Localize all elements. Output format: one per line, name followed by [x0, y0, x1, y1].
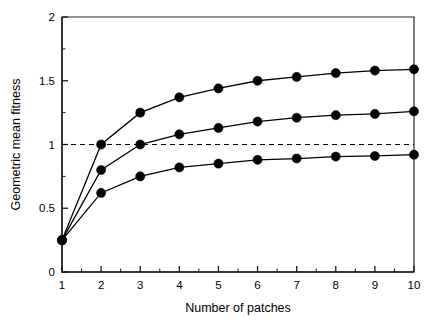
- series-line-lower: [62, 155, 414, 240]
- data-point: [97, 140, 106, 149]
- x-axis-title: Number of patches: [185, 301, 291, 315]
- data-point: [175, 93, 184, 102]
- y-tick-label: 2: [49, 11, 55, 23]
- data-point: [370, 151, 379, 160]
- data-point: [331, 69, 340, 78]
- x-tick-label: 6: [254, 279, 260, 291]
- x-tick-label: 7: [293, 279, 299, 291]
- x-tick-label: 2: [98, 279, 104, 291]
- data-point: [253, 76, 262, 85]
- data-point: [175, 130, 184, 139]
- data-series-lower: [57, 150, 418, 245]
- x-tick-label: 1: [59, 279, 65, 291]
- x-axis-tick-labels: 12345678910: [59, 279, 421, 291]
- x-tick-label: 4: [176, 279, 183, 291]
- axis-titles: Number of patchesGeometric mean fitness: [9, 79, 291, 316]
- data-point: [57, 236, 66, 245]
- data-point: [370, 66, 379, 75]
- data-point: [97, 165, 106, 174]
- data-point: [370, 109, 379, 118]
- y-tick-label: 0: [49, 266, 55, 278]
- series-line-middle: [62, 111, 414, 240]
- data-point: [331, 111, 340, 120]
- x-tick-label: 3: [137, 279, 143, 291]
- data-point: [97, 188, 106, 197]
- chart-figure: 12345678910 00.511.52 Number of patchesG…: [0, 0, 440, 330]
- data-point: [409, 65, 418, 74]
- data-point: [136, 140, 145, 149]
- x-tick-label: 5: [215, 279, 221, 291]
- y-tick-label: 1.5: [39, 75, 55, 87]
- y-axis-title: Geometric mean fitness: [9, 79, 23, 211]
- data-point: [331, 152, 340, 161]
- data-point: [409, 150, 418, 159]
- data-point: [253, 117, 262, 126]
- data-series-group: [57, 65, 418, 245]
- data-point: [292, 72, 301, 81]
- data-point: [214, 84, 223, 93]
- x-tick-label: 8: [333, 279, 339, 291]
- data-point: [409, 107, 418, 116]
- data-point: [214, 159, 223, 168]
- data-point: [292, 113, 301, 122]
- y-tick-label: 0.5: [39, 202, 55, 214]
- data-point: [214, 123, 223, 132]
- data-series-upper: [57, 65, 418, 245]
- x-tick-label: 9: [372, 279, 378, 291]
- data-point: [136, 108, 145, 117]
- y-tick-label: 1: [49, 139, 55, 151]
- x-tick-label: 10: [408, 279, 421, 291]
- data-point: [175, 163, 184, 172]
- data-series-middle: [57, 107, 418, 245]
- geometric-mean-fitness-line-chart: 12345678910 00.511.52 Number of patchesG…: [0, 0, 440, 330]
- data-point: [292, 154, 301, 163]
- series-line-upper: [62, 69, 414, 240]
- data-point: [253, 155, 262, 164]
- y-axis-tick-labels: 00.511.52: [39, 11, 55, 278]
- data-point: [136, 172, 145, 181]
